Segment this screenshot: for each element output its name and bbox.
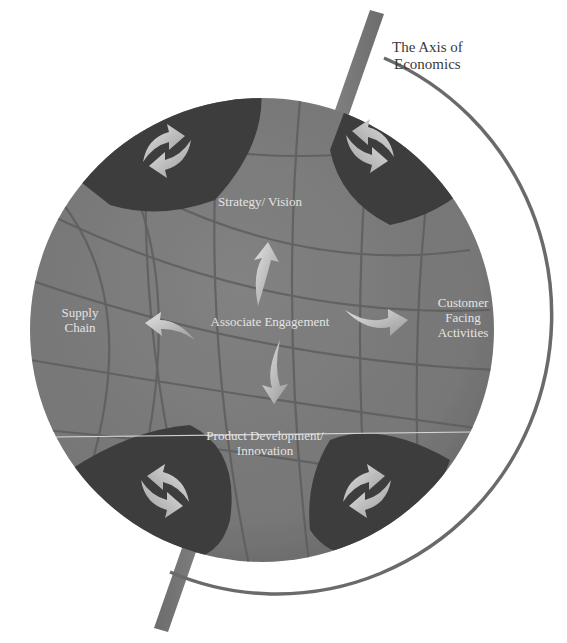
node-supply-chain: Supply Chain [50,306,110,336]
axis-title-line2: Economics [392,56,463,73]
node-strategy-vision: Strategy/ Vision [200,195,320,210]
node-customer-facing: Customer Facing Activities [418,296,508,341]
node-strategy-vision-label: Strategy/ Vision [218,194,302,209]
product-development-line1: Product Development/ [185,429,345,444]
customer-facing-line3: Activities [418,326,508,341]
supply-chain-line2: Chain [50,321,110,336]
node-associate-engagement: Associate Engagement [190,315,350,330]
customer-facing-line2: Facing [418,311,508,326]
axis-of-economics-diagram: Strategy/ Vision Associate Engagement Su… [0,0,567,643]
axis-title: The Axis of Economics [392,39,463,74]
customer-facing-line1: Customer [418,296,508,311]
node-product-development: Product Development/ Innovation [185,429,345,459]
supply-chain-line1: Supply [50,306,110,321]
center-label: Associate Engagement [211,314,330,329]
product-development-line2: Innovation [185,444,345,459]
axis-title-line1: The Axis of [392,39,463,56]
